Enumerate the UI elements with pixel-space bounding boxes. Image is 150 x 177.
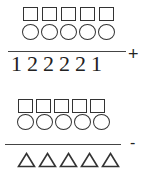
triangle-icon	[38, 152, 57, 168]
triangle-icon	[17, 152, 36, 168]
square-icon	[90, 99, 105, 113]
bottom-divider-line	[5, 144, 121, 145]
circle-icon	[22, 24, 39, 40]
circle-icon	[17, 114, 34, 130]
circle-icon	[55, 114, 72, 130]
digit: 2	[57, 51, 73, 77]
square-icon	[23, 7, 38, 21]
bottom-squares-row	[18, 99, 108, 113]
circle-icon	[74, 114, 91, 130]
bottom-triangles-row	[17, 152, 122, 168]
square-icon	[36, 99, 51, 113]
digit: 1	[9, 51, 25, 77]
plus-operator: +	[128, 44, 139, 65]
square-icon	[61, 7, 76, 21]
circle-icon	[79, 24, 96, 40]
square-icon	[80, 7, 95, 21]
square-icon	[42, 7, 57, 21]
triangle-icon	[59, 152, 78, 168]
digit: 2	[41, 51, 57, 77]
square-icon	[72, 99, 87, 113]
digit: 1	[89, 51, 105, 77]
bottom-circles-row	[17, 114, 112, 130]
top-squares-row	[23, 7, 118, 21]
digit: 2	[25, 51, 41, 77]
circle-icon	[36, 114, 53, 130]
square-icon	[99, 7, 114, 21]
circle-icon	[98, 24, 115, 40]
top-result-digits: 122221	[9, 51, 105, 77]
circle-icon	[60, 24, 77, 40]
digit: 2	[73, 51, 89, 77]
square-icon	[18, 99, 33, 113]
circle-icon	[41, 24, 58, 40]
top-circles-row	[22, 24, 117, 40]
circle-icon	[93, 114, 110, 130]
minus-operator: -	[130, 134, 135, 152]
square-icon	[54, 99, 69, 113]
triangle-icon	[80, 152, 99, 168]
triangle-icon	[101, 152, 120, 168]
